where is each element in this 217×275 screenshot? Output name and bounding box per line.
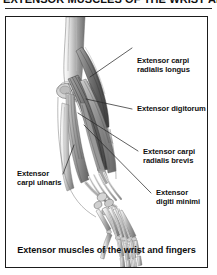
- label-line-1: Extensor digitorum: [137, 105, 206, 114]
- label-line-2: radialis brevis: [143, 157, 195, 166]
- label-extensor-carpi-radialis-brevis: Extensor carpi radialis brevis: [143, 148, 195, 165]
- label-line-2: carpi ulnaris: [17, 179, 62, 188]
- anatomy-illustration: [6, 17, 207, 267]
- page-heading: EXTENSOR MUSCLES OF THE WRIST AND FINGER…: [3, 0, 217, 5]
- label-extensor-digiti-minimi: Extensor digiti minimi: [156, 189, 200, 206]
- label-extensor-digitorum: Extensor digitorum: [137, 105, 206, 114]
- page-heading-clip: EXTENSOR MUSCLES OF THE WRIST AND FINGER…: [0, 0, 217, 6]
- label-extensor-carpi-ulnaris: Extensor carpi ulnaris: [17, 170, 62, 187]
- label-line-2: digiti minimi: [156, 198, 200, 207]
- leader-line-extensor-carpi-radialis-longus: [90, 48, 132, 77]
- label-line-2: radialis longus: [137, 66, 190, 75]
- figure-frame: Extensor carpi radialis longus Extensor …: [5, 16, 208, 268]
- heading-divider-rule: [5, 8, 212, 9]
- label-extensor-carpi-radialis-longus: Extensor carpi radialis longus: [137, 57, 190, 74]
- figure-caption: Extensor muscles of the wrist and finger…: [6, 245, 207, 255]
